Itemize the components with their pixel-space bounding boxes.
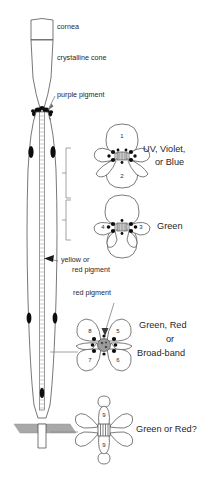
label-green-red-broadband-line1: Green, Red xyxy=(139,320,187,332)
label-green-red-broadband-line3: Broad-band xyxy=(137,348,185,360)
label-green-or-red: Green or Red? xyxy=(136,424,197,436)
label-yellow-pigment-line2: red pigment xyxy=(72,265,110,274)
label-crystalline-cone: crystalline cone xyxy=(57,53,107,62)
leader-purple-pigment xyxy=(48,96,55,110)
crystalline-cone-shape xyxy=(31,40,53,108)
axon-stub xyxy=(38,424,46,448)
cornea-shape xyxy=(31,19,53,41)
bracket-uv-violet-blue xyxy=(62,148,71,198)
label-yellow-pigment-line1: yellow or xyxy=(61,255,89,264)
cross-section-green-red-broadband: 8 5 7 6 xyxy=(76,303,132,371)
rhabdom-striated-rod xyxy=(40,112,45,410)
label-purple-pigment: purple pigment xyxy=(57,90,105,99)
label-red-pigment: red pigment xyxy=(73,288,111,297)
ommatidium-longitudinal-section: 1 2 4 3 xyxy=(0,0,217,480)
label-cornea: cornea xyxy=(57,22,79,31)
cross-section-uv-violet-blue: 1 2 xyxy=(94,124,149,188)
label-uv-violet-blue-line2: or Blue xyxy=(155,157,184,169)
bracket-green xyxy=(62,200,71,240)
label-green: Green xyxy=(157,221,183,233)
label-uv-violet-blue-line1: UV, Violet, xyxy=(143,144,185,156)
cross-section-green: 4 3 xyxy=(94,195,150,258)
cross-section-green-or-red: 9 9 xyxy=(75,396,132,464)
figure-canvas: 1 2 4 3 xyxy=(0,0,217,480)
label-green-red-broadband-line2: or xyxy=(166,334,174,346)
